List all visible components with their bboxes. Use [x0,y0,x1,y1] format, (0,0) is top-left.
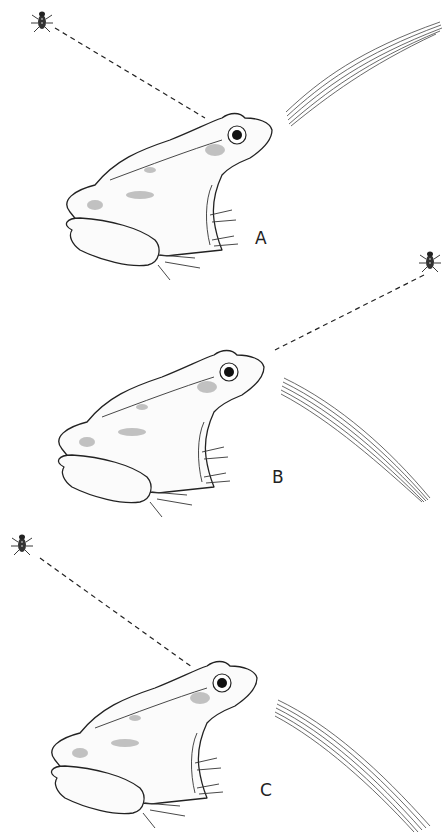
panel-label-c: C [260,780,272,800]
frog-illustration [51,662,257,829]
frog-illustration [58,351,264,518]
frog-illustration [66,114,272,281]
grass-blade [281,378,430,502]
panel-a [31,12,442,281]
panel-c [11,535,430,832]
grass-blade [286,22,442,126]
fly-icon [11,535,33,556]
fly-icon [419,252,441,273]
figure-canvas [0,0,448,832]
gaze-line [40,558,192,667]
grass-blade [275,700,430,832]
panel-b [58,252,441,518]
fly-icon [31,12,53,33]
gaze-line [275,275,424,350]
panel-label-a: A [255,228,267,248]
gaze-line [55,28,205,118]
panel-label-b: B [272,467,284,487]
